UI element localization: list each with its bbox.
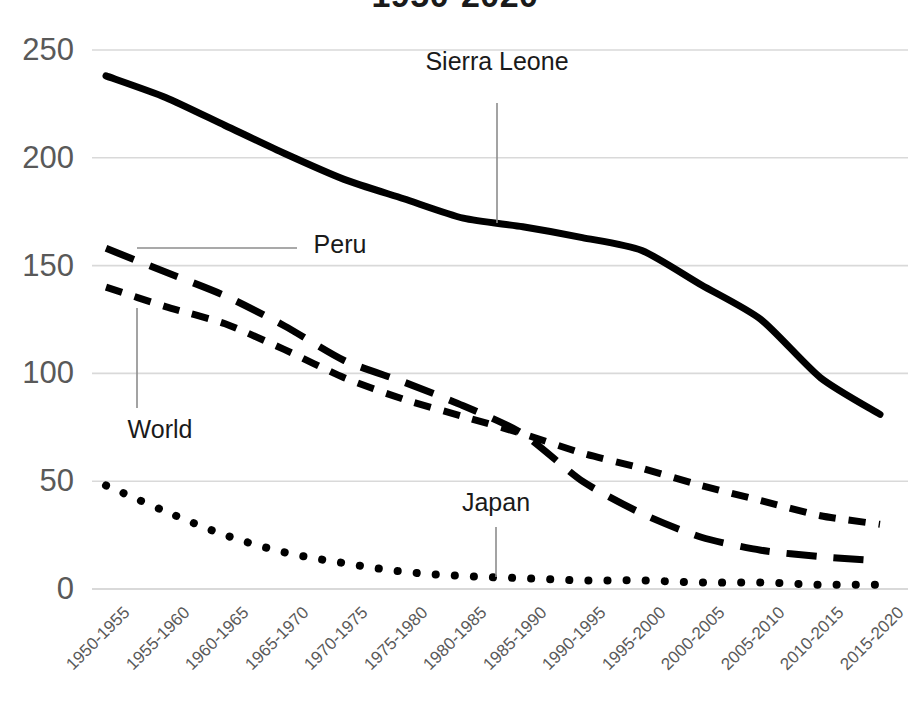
series-label-japan: Japan (462, 488, 530, 517)
plot-area (0, 0, 910, 704)
series-label-sierra-leone: Sierra Leone (425, 47, 568, 76)
series-line-sierra-leone (106, 76, 880, 414)
series-label-world: World (128, 415, 193, 444)
series-label-peru: Peru (314, 230, 367, 259)
chart-canvas: 1950-2020 050100150200250 1950-19551955-… (0, 0, 910, 704)
leader-line-group (137, 103, 497, 577)
